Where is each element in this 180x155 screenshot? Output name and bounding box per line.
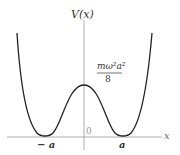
- origin-label: 0: [86, 126, 92, 136]
- minimum-label-positive: a: [119, 139, 125, 150]
- minimum-label-negative: − a: [37, 139, 55, 150]
- peak-denominator: 8: [105, 74, 111, 84]
- peak-numerator: mω²a²: [97, 61, 125, 71]
- potential-curve: [17, 33, 152, 136]
- x-axis-label: x: [164, 130, 170, 141]
- y-axis-label: V(x): [71, 8, 94, 21]
